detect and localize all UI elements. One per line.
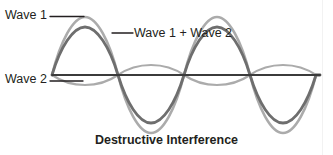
destructive-interference-figure: Wave 1 Wave 2 Wave 1 + Wave 2 Destructiv…: [0, 0, 333, 155]
figure-caption: Destructive Interference: [0, 133, 333, 147]
wave-interference-plot: [0, 0, 333, 155]
sum-label: Wave 1 + Wave 2: [134, 27, 232, 40]
wave1-label: Wave 1: [5, 9, 47, 22]
page-edge-artifact: [322, 0, 323, 155]
wave2-label: Wave 2: [5, 73, 47, 86]
